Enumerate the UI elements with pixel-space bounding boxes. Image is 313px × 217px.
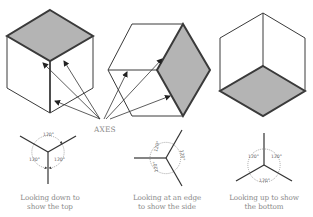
cube-top-face xyxy=(7,10,93,61)
angle-label: 120° xyxy=(179,149,186,161)
axis-diagram-bottom: 120° 120° 120° xyxy=(236,133,292,183)
cube-side-view xyxy=(108,24,210,116)
caption-top-view: Looking down to show the top xyxy=(8,193,92,211)
axis-diagram-top: 120° 120° 120° xyxy=(20,132,76,184)
caption-line: Looking at an edge xyxy=(119,193,215,202)
cube-bottom-view xyxy=(220,13,305,116)
caption-line: Looking up to show xyxy=(218,193,310,202)
angle-label: 120° xyxy=(153,140,161,152)
cube-bottom-face xyxy=(220,66,305,116)
cube-top-view xyxy=(7,10,93,113)
axes-label: AXES xyxy=(94,125,116,134)
caption-line: show the top xyxy=(8,202,92,211)
angle-label: 120° xyxy=(29,157,40,162)
angle-label: 120° xyxy=(152,161,159,173)
angle-label: 120° xyxy=(271,154,282,159)
isometric-diagram: 120° 120° 120° 120° 120° 120° 12 xyxy=(0,0,313,217)
angle-label: 120° xyxy=(259,178,270,183)
cube-side-face xyxy=(157,24,210,116)
caption-side-view: Looking at an edge to show the side xyxy=(119,193,215,211)
caption-bottom-view: Looking up to show the bottom xyxy=(218,193,310,211)
caption-line: to show the side xyxy=(119,202,215,211)
caption-line: Looking down to xyxy=(8,193,92,202)
axis-diagram-side: 120° 120° 120° xyxy=(134,130,186,186)
angle-label: 120° xyxy=(248,154,259,159)
axes-arrows xyxy=(43,59,170,119)
caption-line: the bottom xyxy=(218,202,310,211)
angle-label: 120° xyxy=(43,132,54,137)
angle-label: 120° xyxy=(54,157,65,162)
